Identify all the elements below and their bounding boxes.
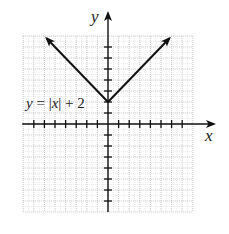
curve-right-branch [108, 38, 169, 102]
graph-figure: x y y = |x| + 2 [0, 0, 229, 234]
function-label-eq: = | [33, 95, 52, 111]
function-label-rest: | + 2 [58, 95, 84, 111]
y-axis-label: y [89, 7, 99, 26]
x-axis-label: x [204, 126, 213, 145]
curve-left-branch [47, 38, 108, 102]
function-label-y: y [24, 95, 33, 111]
coordinate-plane: x y y = |x| + 2 [0, 0, 229, 234]
function-label: y = |x| + 2 [24, 95, 85, 111]
